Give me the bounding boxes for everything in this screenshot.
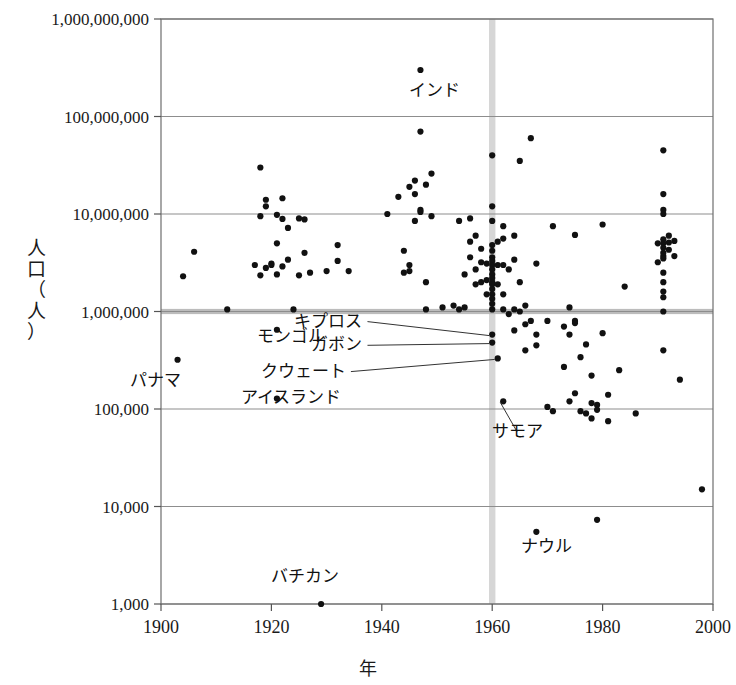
data-points-layer xyxy=(174,67,705,607)
data-point xyxy=(467,239,473,245)
y-axis-title: 人 口 （ 人 ） xyxy=(16,238,56,343)
data-point xyxy=(522,302,528,308)
data-point xyxy=(528,318,534,324)
data-point xyxy=(671,253,677,259)
data-point xyxy=(180,273,186,279)
x-tick-label: 1940 xyxy=(364,617,400,637)
annotation-label: バチカン xyxy=(271,567,339,586)
data-point xyxy=(484,260,490,266)
annotation-leader-line xyxy=(351,359,495,371)
data-point xyxy=(666,247,672,253)
data-point xyxy=(666,239,672,245)
data-point xyxy=(533,342,539,348)
data-point xyxy=(616,367,622,373)
data-point xyxy=(423,279,429,285)
data-point xyxy=(324,268,330,274)
data-point xyxy=(412,191,418,197)
data-point xyxy=(660,347,666,353)
data-point xyxy=(600,330,606,336)
data-point xyxy=(489,286,495,292)
data-point xyxy=(395,194,401,200)
y-tick-label: 1,000,000,000 xyxy=(51,10,149,29)
data-point xyxy=(577,354,583,360)
plot-canvas: 1,00010,000100,0001,000,00010,000,000100… xyxy=(0,0,736,685)
data-point xyxy=(301,216,307,222)
annotation-label: クウェート xyxy=(261,362,346,381)
data-point xyxy=(533,529,539,535)
data-point xyxy=(572,320,578,326)
data-point xyxy=(511,257,517,263)
data-point xyxy=(473,233,479,239)
data-point xyxy=(384,211,390,217)
x-tick-label: 1900 xyxy=(143,617,179,637)
data-point xyxy=(489,301,495,307)
data-point xyxy=(495,281,501,287)
data-point xyxy=(566,398,572,404)
data-point xyxy=(622,284,628,290)
data-point xyxy=(406,262,412,268)
data-point xyxy=(489,331,495,337)
data-point xyxy=(517,158,523,164)
data-point xyxy=(456,306,462,312)
x-tick-label: 1960 xyxy=(474,617,510,637)
data-point xyxy=(473,266,479,272)
data-point xyxy=(318,601,324,607)
data-point xyxy=(517,308,523,314)
annotation-label: パナマ xyxy=(130,371,181,390)
population-independence-scatter-chart: 1,00010,000100,0001,000,00010,000,000100… xyxy=(0,0,736,685)
data-point xyxy=(489,203,495,209)
data-point xyxy=(517,279,523,285)
data-point xyxy=(500,262,506,268)
data-point xyxy=(191,249,197,255)
data-point xyxy=(307,270,313,276)
data-point xyxy=(500,235,506,241)
data-point xyxy=(252,262,258,268)
data-point xyxy=(671,238,677,244)
data-point xyxy=(489,248,495,254)
data-point xyxy=(660,294,666,300)
annotation-leader-line xyxy=(367,344,489,346)
data-point xyxy=(224,306,230,312)
data-point xyxy=(561,324,567,330)
data-point xyxy=(533,331,539,337)
data-point xyxy=(285,257,291,263)
data-point xyxy=(522,321,528,327)
data-point xyxy=(296,215,302,221)
annotation-label: インド xyxy=(409,81,460,100)
data-point xyxy=(588,415,594,421)
data-point xyxy=(489,218,495,224)
data-point xyxy=(594,517,600,523)
data-point xyxy=(285,225,291,231)
data-point xyxy=(428,170,434,176)
data-point xyxy=(257,164,263,170)
data-point xyxy=(660,255,666,261)
data-point xyxy=(506,311,512,317)
data-point xyxy=(467,215,473,221)
data-point xyxy=(633,410,639,416)
data-point xyxy=(268,260,274,266)
data-point xyxy=(511,306,517,312)
data-point xyxy=(467,254,473,260)
data-point xyxy=(462,271,468,277)
data-point xyxy=(412,218,418,224)
data-point xyxy=(666,233,672,239)
x-tick-label: 1980 xyxy=(585,617,621,637)
data-point xyxy=(417,207,423,213)
y-tick-label: 1,000 xyxy=(111,595,149,614)
y-tick-label: 10,000,000 xyxy=(73,205,150,224)
y-tick-label: 100,000 xyxy=(94,400,149,419)
data-point xyxy=(577,408,583,414)
data-point xyxy=(660,279,666,285)
data-point xyxy=(528,135,534,141)
data-point xyxy=(489,306,495,312)
data-point xyxy=(296,272,302,278)
y-tick-label: 100,000,000 xyxy=(64,108,149,127)
data-point xyxy=(522,347,528,353)
data-point xyxy=(588,373,594,379)
data-point xyxy=(660,270,666,276)
data-point xyxy=(495,239,501,245)
data-point xyxy=(500,223,506,229)
data-point xyxy=(484,277,490,283)
data-point xyxy=(301,250,307,256)
data-point xyxy=(588,400,594,406)
